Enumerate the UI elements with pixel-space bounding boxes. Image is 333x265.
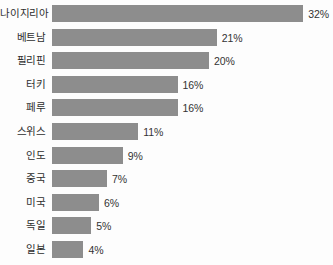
bar-value-label: 21% [222, 29, 243, 46]
bar-row: 스위스11% [0, 123, 333, 140]
bar-value-label: 4% [88, 241, 103, 258]
category-label: 스위스 [0, 123, 46, 140]
bar [52, 241, 83, 258]
bar-row: 베트남21% [0, 29, 333, 46]
bar [52, 194, 99, 211]
bar-row: 미국6% [0, 194, 333, 211]
bar-value-label: 5% [96, 217, 111, 234]
bar-row: 독일5% [0, 217, 333, 234]
category-label: 미국 [0, 194, 46, 211]
bar-row: 나이지리아32% [0, 5, 333, 22]
bar [52, 99, 178, 116]
bar-value-label: 20% [214, 52, 235, 69]
bar-value-label: 6% [104, 194, 119, 211]
bar-value-label: 11% [143, 123, 163, 140]
bar-row: 페루16% [0, 99, 333, 116]
bar [52, 147, 123, 164]
bar [52, 217, 91, 234]
bar-row: 인도9% [0, 147, 333, 164]
bar [52, 29, 217, 46]
bar-value-label: 16% [183, 99, 204, 116]
bar-row: 터키16% [0, 76, 333, 93]
bar-value-label: 9% [128, 147, 143, 164]
bar [52, 76, 178, 93]
category-label: 터키 [0, 76, 46, 93]
category-label: 중국 [0, 170, 46, 187]
category-label: 인도 [0, 147, 46, 164]
bar-value-label: 7% [112, 170, 127, 187]
category-label: 독일 [0, 217, 46, 234]
bar-row: 중국7% [0, 170, 333, 187]
category-label: 나이지리아 [0, 5, 46, 22]
bar-row: 일본4% [0, 241, 333, 258]
horizontal-bar-chart: 나이지리아32%베트남21%필리핀20%터키16%페루16%스위스11%인도9%… [0, 0, 333, 265]
bar [52, 123, 138, 140]
category-label: 필리핀 [0, 52, 46, 69]
bar-row: 필리핀20% [0, 52, 333, 69]
bar-value-label: 16% [183, 76, 204, 93]
category-label: 일본 [0, 241, 46, 258]
bar-value-label: 32% [308, 5, 329, 22]
bar [52, 5, 303, 22]
bar [52, 170, 107, 187]
bar [52, 52, 209, 69]
category-label: 페루 [0, 99, 46, 116]
category-label: 베트남 [0, 29, 46, 46]
